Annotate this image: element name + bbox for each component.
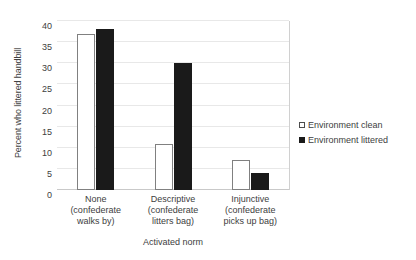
bar (155, 144, 173, 190)
bar (232, 160, 250, 190)
legend-swatch-clean-icon (299, 122, 305, 128)
bar-group (155, 21, 192, 190)
bar (251, 173, 269, 190)
legend-swatch-littered-icon (299, 137, 305, 143)
legend-label: Environment clean (308, 120, 383, 130)
legend-label: Environment littered (308, 135, 388, 145)
bar (77, 34, 95, 190)
x-axis-title: Activated norm (57, 237, 289, 247)
bar (174, 63, 192, 190)
x-axis-category-label: Injunctive(confederatepicks up bag) (205, 194, 295, 227)
chart-legend: Environment cleanEnvironment littered (299, 117, 388, 147)
legend-item: Environment littered (299, 132, 388, 147)
axis-line-right (289, 21, 290, 190)
bar-chart-figure: Percent who littered handbill 0510152025… (0, 0, 416, 260)
bar-group (232, 21, 269, 190)
category-label-line: picks up bag) (205, 216, 295, 227)
category-label-line: Injunctive (205, 194, 295, 205)
legend-item: Environment clean (299, 117, 388, 132)
plot-area: 0510152025303540 (57, 21, 289, 190)
y-axis-title: Percent who littered handbill (10, 8, 26, 198)
category-label-line: (confederate (205, 205, 295, 216)
bar (96, 29, 114, 190)
bar-group (77, 21, 114, 190)
